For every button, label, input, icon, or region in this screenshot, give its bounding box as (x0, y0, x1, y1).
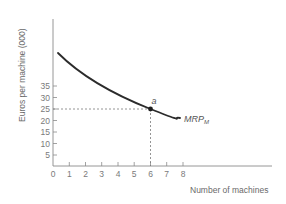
y-tick-label: 10 (41, 139, 51, 149)
y-ticks (53, 86, 57, 155)
x-tick-label: 3 (99, 169, 104, 179)
x-tick-label: 8 (181, 169, 186, 179)
x-tick-label: 2 (83, 169, 88, 179)
series-label: MRPM (184, 114, 209, 125)
x-tick-label: 6 (148, 169, 153, 179)
x-tick-label: 7 (164, 169, 169, 179)
x-ticks (69, 162, 183, 166)
y-axis-title: Euros per machine (000) (17, 28, 27, 122)
x-tick-label: 4 (116, 169, 121, 179)
x-tick-label: 5 (132, 169, 137, 179)
x-tick-label: 1 (67, 169, 72, 179)
x-tick-labels: 0 1 2 3 4 5 6 7 8 (51, 169, 186, 179)
y-tick-label: 20 (41, 116, 51, 126)
x-tick-label: 0 (51, 169, 56, 179)
y-tick-label: 5 (45, 150, 50, 160)
series-label-sub: M (204, 119, 209, 125)
point-a-marker (148, 107, 153, 112)
point-a-label: a (152, 96, 157, 106)
x-axis-title: Number of machines (190, 185, 268, 195)
y-tick-label: 25 (41, 104, 51, 114)
y-tick-label: 15 (41, 127, 51, 137)
y-tick-labels: 5 10 15 20 25 30 35 (41, 81, 51, 160)
series-label-main: MRP (184, 114, 204, 124)
y-tick-label: 35 (41, 81, 51, 91)
y-tick-label: 30 (41, 93, 51, 103)
chart: Euros per machine (000) Number of machin… (0, 0, 286, 204)
